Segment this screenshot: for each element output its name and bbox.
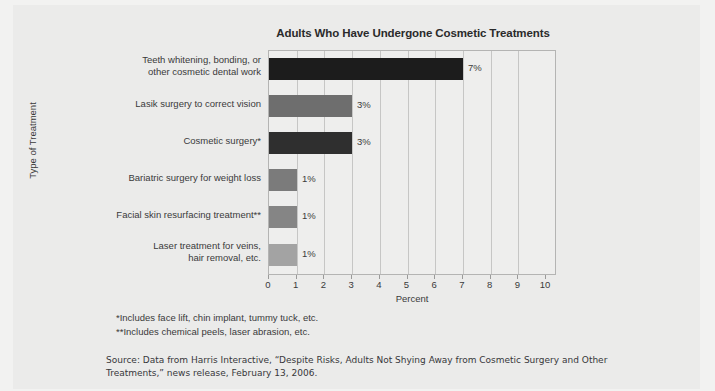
bar-row: 1% <box>269 237 556 274</box>
bar-row: 7% <box>269 51 556 88</box>
bar-row: 3% <box>269 125 556 162</box>
chart-title: Adults Who Have Undergone Cosmetic Treat… <box>263 27 563 39</box>
bar-value-label: 7% <box>468 62 482 73</box>
footnote: *Includes face lift, chin implant, tummy… <box>116 311 318 325</box>
bar[interactable] <box>269 132 352 154</box>
x-axis-tick-group: 0 1 2 3 4 5 6 7 8 9 10 <box>268 275 556 289</box>
bar-row: 1% <box>269 162 556 199</box>
chart-figure: Adults Who Have Undergone Cosmetic Treat… <box>13 5 700 389</box>
category-label-line1: Lasik surgery to correct vision <box>51 98 261 110</box>
bar-value-label: 1% <box>302 210 316 221</box>
bar-value-label: 3% <box>357 99 371 110</box>
plot-area: 7% 3% 3% 1% 1% 1% <box>268 50 556 275</box>
page-sheet: Adults Who Have Undergone Cosmetic Treat… <box>13 5 700 389</box>
x-axis-title: Percent <box>268 293 556 304</box>
category-label-line2: hair removal, etc. <box>51 252 261 264</box>
bar-row: 1% <box>269 199 556 236</box>
bar[interactable] <box>269 244 297 266</box>
x-axis-tick-label: 2 <box>311 279 335 290</box>
footnote-group: *Includes face lift, chin implant, tummy… <box>116 311 318 338</box>
bar-value-label: 1% <box>302 173 316 184</box>
bar[interactable] <box>269 95 352 117</box>
x-axis-tick-label: 10 <box>533 279 557 290</box>
bar-value-label: 3% <box>357 136 371 147</box>
category-label: Bariatric surgery for weight loss <box>51 172 261 184</box>
category-label-line2: other cosmetic dental work <box>51 66 261 78</box>
category-label: Facial skin resurfacing treatment** <box>51 209 261 221</box>
x-axis-tick-label: 3 <box>339 279 363 290</box>
x-axis-tick-label: 8 <box>478 279 502 290</box>
x-axis-tick-label: 1 <box>284 279 308 290</box>
category-label-line1: Facial skin resurfacing treatment** <box>51 209 261 221</box>
plot-right-border <box>555 50 556 275</box>
x-axis-tick-label: 5 <box>395 279 419 290</box>
bar-row: 3% <box>269 88 556 125</box>
x-axis-tick-label: 9 <box>505 279 529 290</box>
bar[interactable] <box>269 169 297 191</box>
category-label-group: Teeth whitening, bonding, or other cosme… <box>48 50 261 273</box>
category-label: Lasik surgery to correct vision <box>51 98 261 110</box>
y-axis-title: Type of Treatment <box>27 86 38 196</box>
category-label: Teeth whitening, bonding, or other cosme… <box>51 54 261 77</box>
category-label-line1: Bariatric surgery for weight loss <box>51 172 261 184</box>
category-label: Cosmetic surgery* <box>51 135 261 147</box>
bar-value-label: 1% <box>302 248 316 259</box>
category-label-line1: Cosmetic surgery* <box>51 135 261 147</box>
category-label-line1: Teeth whitening, bonding, or <box>51 54 261 66</box>
x-axis-tick-label: 4 <box>367 279 391 290</box>
category-label-line1: Laser treatment for veins, <box>51 240 261 252</box>
bar[interactable] <box>269 58 463 80</box>
x-axis-tick-label: 6 <box>422 279 446 290</box>
source-note: Source: Data from Harris Interactive, “D… <box>106 354 616 380</box>
x-axis-tick-label: 7 <box>450 279 474 290</box>
category-label: Laser treatment for veins, hair removal,… <box>51 240 261 263</box>
footnote: **Includes chemical peels, laser abrasio… <box>116 325 318 339</box>
bar[interactable] <box>269 206 297 228</box>
x-axis-tick-label: 0 <box>256 279 280 290</box>
